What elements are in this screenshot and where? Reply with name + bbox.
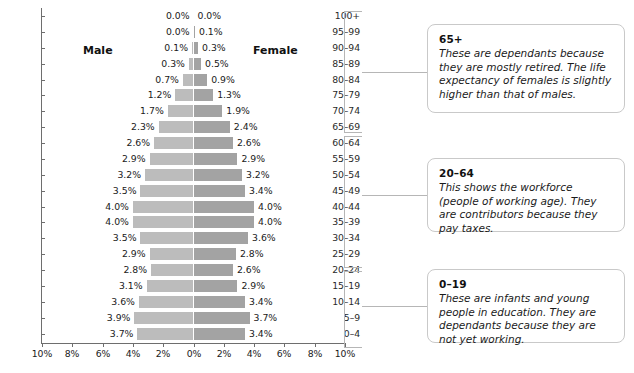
- bar-value-label-female: 2.6%: [237, 137, 261, 149]
- y-axis-tick: [41, 302, 45, 303]
- bar-value-label-male: 3.2%: [81, 169, 141, 181]
- bar-value-label-female: 0.0%: [198, 10, 222, 22]
- female-series-label: Female: [253, 44, 298, 57]
- x-axis-tick: [72, 343, 73, 347]
- annotation-text-0-19: These are infants and young people in ed…: [439, 292, 614, 346]
- bar-value-label-female: 1.9%: [226, 105, 250, 117]
- y-axis-tick: [41, 207, 45, 208]
- bar-value-label-male: 3.5%: [76, 232, 136, 244]
- y-axis-tick: [41, 334, 45, 335]
- x-axis-tick: [315, 343, 316, 347]
- y-axis-tick: [41, 111, 45, 112]
- y-axis-tick: [41, 80, 45, 81]
- bar-male: [139, 296, 194, 308]
- bar-value-label-female: 4.0%: [258, 216, 282, 228]
- bar-value-label-male: 2.6%: [90, 137, 150, 149]
- x-axis-tick-label: 6%: [269, 348, 299, 360]
- bar-value-label-female: 0.1%: [199, 26, 223, 38]
- bar-value-label-male: 0.3%: [125, 58, 185, 70]
- bar-male: [140, 185, 193, 197]
- bar-male: [140, 232, 193, 244]
- bar-male: [154, 137, 193, 149]
- bar-value-label-male: 4.0%: [69, 216, 129, 228]
- bar-male: [168, 105, 194, 117]
- bar-value-label-female: 1.3%: [217, 89, 241, 101]
- x-axis-tick: [254, 343, 255, 347]
- bar-female: [194, 153, 238, 165]
- bar-value-label-female: 3.4%: [249, 328, 273, 340]
- bar-value-label-male: 3.9%: [70, 312, 130, 324]
- bracket-0-19: [344, 271, 362, 348]
- x-axis-tick-label: 4%: [239, 348, 269, 360]
- bar-female: [194, 89, 214, 101]
- bar-value-label-female: 3.7%: [254, 312, 278, 324]
- annotation-card-0-19: 0–19 These are infants and young people …: [427, 269, 625, 343]
- bar-female: [194, 58, 202, 70]
- population-pyramid-figure: 100+95–9990–9485–8980–8475–7970–7465–696…: [0, 0, 634, 373]
- x-axis-tick-label: 2%: [148, 348, 178, 360]
- annotation-title-0-19: 0–19: [439, 278, 614, 290]
- bar-value-label-female: 2.9%: [241, 280, 265, 292]
- bar-value-label-male: 4.0%: [69, 201, 129, 213]
- bar-value-label-male: 0.7%: [119, 74, 179, 86]
- y-axis-tick: [41, 286, 45, 287]
- x-axis-tick-label: 6%: [88, 348, 118, 360]
- bar-value-label-female: 2.6%: [237, 264, 261, 276]
- age-group-brackets: [340, 0, 440, 373]
- bar-value-label-male: 0.0%: [130, 10, 190, 22]
- bar-male: [150, 248, 194, 260]
- y-axis-tick: [41, 254, 45, 255]
- bar-value-label-female: 3.6%: [252, 232, 276, 244]
- y-axis-tick: [41, 95, 45, 96]
- annotation-title-20-64: 20–64: [439, 167, 614, 179]
- bar-value-label-female: 0.9%: [211, 74, 235, 86]
- bar-male: [175, 89, 193, 101]
- x-axis-tick: [133, 343, 134, 347]
- bracket-20-64: [344, 136, 362, 268]
- annotation-text-20-64: This shows the workforce (people of work…: [439, 181, 614, 235]
- bar-female: [194, 328, 246, 340]
- male-series-label: Male: [83, 44, 113, 57]
- bar-male: [183, 74, 194, 86]
- y-axis-tick: [41, 175, 45, 176]
- bar-value-label-male: 2.9%: [86, 153, 146, 165]
- bar-value-label-female: 3.4%: [249, 296, 273, 308]
- bar-female: [194, 105, 223, 117]
- bar-value-label-male: 2.8%: [87, 264, 147, 276]
- x-axis-tick-label: 0%: [179, 348, 209, 360]
- bar-female: [194, 185, 246, 197]
- bar-female: [194, 42, 199, 54]
- bar-female: [194, 312, 250, 324]
- bar-value-label-female: 3.2%: [246, 169, 270, 181]
- y-axis-tick: [41, 16, 45, 17]
- bracket-65plus: [344, 11, 362, 133]
- bar-male: [133, 216, 194, 228]
- x-axis-tick-label: 8%: [57, 348, 87, 360]
- bar-male: [134, 312, 193, 324]
- bar-value-label-female: 0.3%: [202, 42, 226, 54]
- bar-value-label-female: 4.0%: [258, 201, 282, 213]
- bar-male: [151, 264, 193, 276]
- y-axis-tick: [41, 48, 45, 49]
- annotation-text-65plus: These are dependants because they are mo…: [439, 47, 614, 101]
- bar-female: [194, 216, 255, 228]
- bar-value-label-male: 2.3%: [95, 121, 155, 133]
- bar-female: [194, 232, 249, 244]
- y-axis-tick: [41, 143, 45, 144]
- x-axis-tick: [284, 343, 285, 347]
- bar-value-label-male: 3.1%: [83, 280, 143, 292]
- annotation-card-65plus: 65+ These are dependants because they ar…: [427, 24, 625, 113]
- bar-female: [194, 74, 208, 86]
- bar-value-label-male: 3.5%: [76, 185, 136, 197]
- bar-female: [194, 169, 242, 181]
- bar-value-label-female: 2.4%: [234, 121, 258, 133]
- bar-value-label-male: 3.7%: [73, 328, 133, 340]
- bar-female: [194, 280, 238, 292]
- annotation-card-20-64: 20–64 This shows the workforce (people o…: [427, 158, 625, 232]
- bar-male: [137, 328, 193, 340]
- x-axis-tick: [42, 343, 43, 347]
- bar-male: [147, 280, 194, 292]
- bar-value-label-male: 2.9%: [86, 248, 146, 260]
- y-axis-tick: [41, 127, 45, 128]
- bar-female: [194, 296, 246, 308]
